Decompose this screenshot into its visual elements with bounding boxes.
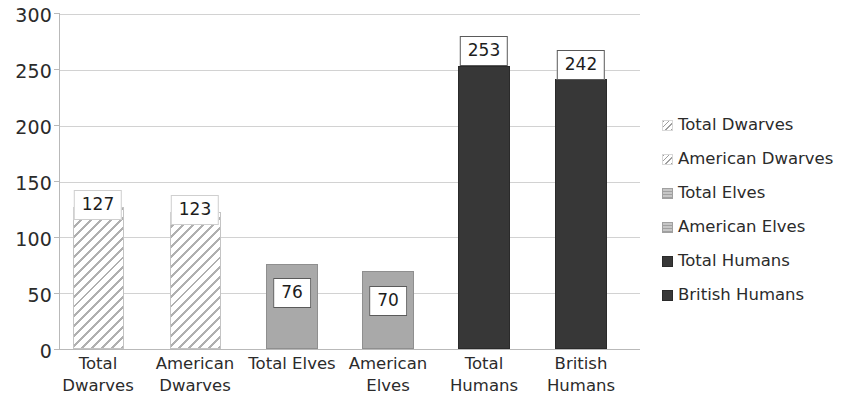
bar-total-dwarves[interactable] [73, 207, 124, 349]
gridline-50 [60, 293, 640, 294]
legend-swatch-icon-british-humans [662, 290, 673, 301]
data-label-british-humans: 242 [557, 50, 605, 80]
plot-area: 127 123 76 70 253 242 [60, 14, 640, 349]
chart-legend: Total Dwarves American Dwarves Total Elv… [662, 108, 848, 312]
data-label-american-dwarves: 123 [171, 195, 219, 225]
legend-swatch-icon-total-humans [662, 256, 673, 267]
x-axis-label-total-humans: Total Humans [441, 353, 527, 398]
y-axis-tick-100: 100 [4, 230, 52, 249]
x-axis-label-american-dwarves: American Dwarves [145, 353, 245, 398]
legend-item-american-dwarves[interactable]: American Dwarves [662, 142, 848, 176]
legend-swatch-icon-total-dwarves [662, 120, 673, 131]
y-axis-tick-300: 300 [4, 6, 52, 25]
gridline-100 [60, 237, 640, 238]
y-axis-tick-200: 200 [4, 118, 52, 137]
legend-item-total-dwarves[interactable]: Total Dwarves [662, 108, 848, 142]
gridline-250 [60, 70, 640, 71]
gridline-150 [60, 182, 640, 183]
y-axis-tick-50: 50 [4, 286, 52, 305]
legend-label-american-dwarves: American Dwarves [678, 151, 833, 168]
data-label-total-humans: 253 [460, 36, 508, 66]
legend-item-british-humans[interactable]: British Humans [662, 278, 848, 312]
data-label-total-elves: 76 [273, 278, 311, 308]
data-label-total-dwarves: 127 [74, 190, 122, 220]
x-axis-label-total-elves: Total Elves [244, 353, 340, 375]
y-axis-tick-250: 250 [4, 62, 52, 81]
bar-american-dwarves[interactable] [170, 212, 221, 349]
legend-label-total-humans: Total Humans [678, 253, 790, 270]
legend-label-total-dwarves: Total Dwarves [678, 117, 793, 134]
legend-label-british-humans: British Humans [678, 287, 804, 304]
y-axis-labels: 300 250 200 150 100 50 0 [0, 0, 52, 406]
y-axis-tick-150: 150 [4, 174, 52, 193]
x-axis-label-total-dwarves: Total Dwarves [53, 353, 143, 398]
x-axis-label-american-elves: American Elves [342, 353, 434, 398]
legend-label-total-elves: Total Elves [678, 185, 765, 202]
x-axis-label-british-humans: British Humans [538, 353, 624, 398]
legend-swatch-icon-total-elves [662, 188, 673, 199]
bar-british-humans[interactable] [555, 79, 607, 349]
legend-label-american-elves: American Elves [678, 219, 805, 236]
legend-item-total-humans[interactable]: Total Humans [662, 244, 848, 278]
bar-total-humans[interactable] [458, 66, 510, 349]
legend-swatch-icon-american-elves [662, 222, 673, 233]
bar-chart: 300 250 200 150 100 50 0 127 [0, 0, 851, 406]
legend-swatch-icon-american-dwarves [662, 154, 673, 165]
x-axis-labels: Total Dwarves American Dwarves Total Elv… [60, 353, 640, 403]
legend-item-american-elves[interactable]: American Elves [662, 210, 848, 244]
gridline-0 [60, 349, 640, 350]
gridline-200 [60, 126, 640, 127]
legend-item-total-elves[interactable]: Total Elves [662, 176, 848, 210]
data-label-american-elves: 70 [369, 286, 407, 316]
y-axis-tick-0: 0 [4, 342, 52, 361]
gridlines [60, 14, 640, 349]
gridline-300 [60, 14, 640, 15]
